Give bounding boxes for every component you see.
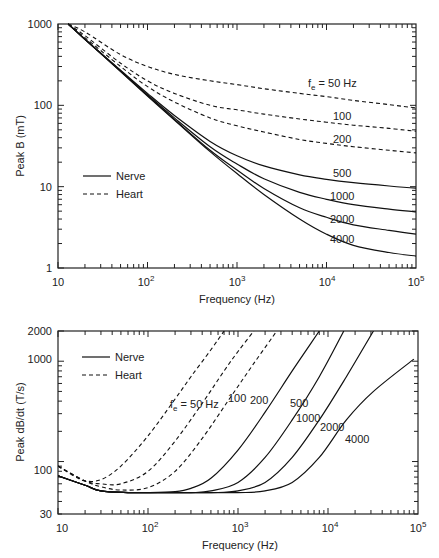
bottom-annotation-500: 500: [290, 397, 308, 409]
curve-3: [58, 331, 319, 493]
legend-heart-label: Heart: [116, 188, 143, 200]
top-ytick-100: 100: [34, 99, 52, 111]
legend-nerve-label: Nerve: [115, 351, 144, 363]
top-axis-ticks: [58, 24, 416, 268]
curve-1: [68, 24, 416, 131]
legend-nerve-label: Nerve: [116, 170, 145, 182]
bottom-xlabel: Frequency (Hz): [202, 539, 278, 551]
bottom-xtick-1e2: 102: [142, 520, 159, 534]
bottom-annotation-1000: 1000: [296, 412, 320, 424]
top-annotation-200: 200: [333, 133, 351, 145]
bottom-annotation-2000: 2000: [320, 421, 344, 433]
top-annotation-fe-50: fe = 50 Hz: [308, 77, 357, 92]
top-ytick-10: 10: [40, 181, 52, 193]
top-curves: [68, 24, 416, 256]
bottom-axis-ticks: [58, 331, 418, 514]
bottom-legend: Nerve Heart: [82, 351, 144, 381]
bottom-xtick-1e3: 103: [232, 520, 249, 534]
bottom-annotation-100: 100: [228, 392, 246, 404]
bottom-ytick-30: 30: [40, 508, 52, 520]
bottom-chart-peak-dbdt: 2000 1000 100 30 10 102 103 104 105 Freq…: [14, 325, 427, 551]
bottom-plot-frame: [58, 331, 418, 514]
top-ytick-1: 1: [46, 262, 52, 274]
bottom-xticklabels: 10 102 103 104 105: [56, 520, 427, 534]
bottom-curves: [58, 331, 414, 493]
top-xtick-1e5: 105: [408, 274, 425, 288]
bottom-ylabel: Peak dB/dt (T/s): [14, 382, 26, 461]
curve-5: [58, 331, 374, 493]
bottom-xtick-1e5: 105: [410, 520, 427, 534]
curve-3: [68, 24, 416, 188]
figure: 1000 100 10 1 10 102 103 104 105 Frequen…: [0, 0, 439, 558]
bottom-ytick-100: 100: [34, 464, 52, 476]
bottom-annotation-fe-50: fe = 50 Hz: [170, 398, 219, 413]
top-chart-peak-b: 1000 100 10 1 10 102 103 104 105 Frequen…: [14, 18, 425, 305]
curve-1: [58, 331, 254, 485]
bottom-xtick-10: 10: [56, 522, 68, 534]
top-annotation-4000: 4000: [330, 233, 354, 245]
top-xticklabels: 10 102 103 104 105: [52, 274, 425, 288]
top-ytick-1000: 1000: [28, 18, 52, 30]
top-xtick-1e3: 103: [229, 274, 246, 288]
bottom-annotation-200: 200: [250, 394, 268, 406]
top-ylabel: Peak B (mT): [14, 115, 26, 177]
curve-2: [68, 24, 416, 153]
top-xlabel: Frequency (Hz): [199, 293, 275, 305]
legend-heart-label: Heart: [115, 369, 142, 381]
curve-6: [68, 24, 416, 256]
top-xtick-1e4: 104: [319, 274, 336, 288]
bottom-ytick-1000: 1000: [28, 353, 52, 365]
curve-5: [68, 24, 416, 234]
top-annotation-100: 100: [333, 110, 351, 122]
top-annotation-2000: 2000: [330, 213, 354, 225]
curve-6: [58, 359, 414, 493]
bottom-ytick-2000: 2000: [28, 325, 52, 337]
top-annotation-500: 500: [333, 167, 351, 179]
bottom-xtick-1e4: 104: [322, 520, 339, 534]
top-plot-frame: [58, 24, 416, 268]
top-xtick-1e2: 102: [138, 274, 155, 288]
top-xtick-10: 10: [52, 276, 64, 288]
top-annotation-1000: 1000: [330, 190, 354, 202]
bottom-annotation-4000: 4000: [345, 433, 369, 445]
top-legend: Nerve Heart: [83, 170, 145, 200]
